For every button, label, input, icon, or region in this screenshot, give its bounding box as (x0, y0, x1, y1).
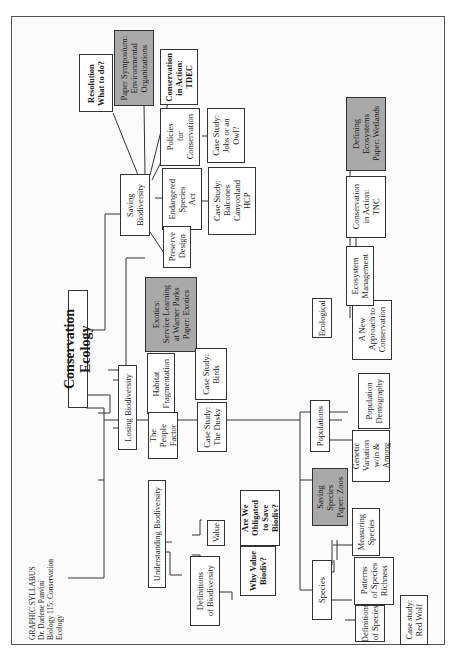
node-endangered-species-act: Endangered Species Act (162, 168, 202, 230)
node-preserve-design: Preserve Design (163, 226, 191, 268)
node-are-we-obligated: Are We Obligated to Save Biodiv? (240, 490, 280, 546)
node-saving-species: Saving Species Paper: Zoos (312, 468, 348, 526)
node-paper-symposium: Paper Symposium: Environmental Organizat… (114, 30, 154, 106)
node-exotics: Exotics: Service Learning at Warner Park… (145, 277, 197, 352)
node-case-dusky: Case Study: The Dusky (197, 402, 227, 452)
node-resolution: Resolution What to do? (79, 54, 113, 112)
node-why-value: Why Value Biodiv? (240, 546, 276, 596)
node-habitat-fragmentation: Habitat Fragmentation (147, 353, 175, 414)
node-jobs-owl: Case Study: Jobs or an Owl? (207, 108, 245, 163)
node-defining-ecosystems: Defining Ecosystems Paper: Wetlands (346, 97, 386, 171)
node-value: Value (207, 520, 225, 546)
root-conservation-ecology: Conservation Ecology (68, 290, 88, 408)
node-definitions-biodiversity: Definitions of Biodiversity (190, 556, 220, 626)
header-instructor: Dr. Darlene Panvini (37, 580, 46, 640)
root-label: Conservation Ecology (62, 291, 94, 407)
header-lines: GRAPHIC SYLLABUS Dr. Darlene Panvini Bio… (28, 540, 64, 640)
node-case-birds: Case Study: Birds (195, 348, 227, 400)
syllabus-header: GRAPHIC SYLLABUS Dr. Darlene Panvini Bio… (28, 540, 68, 640)
node-ecosystem-management: Ecosystem Management (346, 246, 374, 306)
node-genetic-variation: Genetic Variation w/in & Among (352, 430, 390, 482)
header-title: GRAPHIC SYLLABUS (28, 566, 37, 640)
node-losing-biodiversity: Losing Biodiversity (118, 365, 137, 450)
node-definitions-species: Definitions of Species (355, 605, 385, 642)
node-species: Species (312, 560, 332, 620)
node-balcones: Case Study: Balcones Canyonland HCP (208, 167, 256, 235)
node-case-red-wolf: Case study: Red Wolf (400, 595, 428, 645)
header-course: Biology 115: Conservation Ecology (46, 559, 64, 640)
node-saving-biodiversity: Saving Biodiversity (120, 174, 150, 236)
node-patterns-richness: Patterns of Species Richness (354, 557, 394, 605)
node-people-factor: The People Factor (148, 412, 178, 459)
node-measuring-species: Measuring Species (352, 508, 380, 556)
node-populations: Populations (310, 400, 330, 452)
node-population-demography: Population Demography (358, 373, 390, 429)
node-new-approach: A New Approach to Conservation (352, 300, 392, 360)
node-understanding-biodiversity: Understanding Biodiversity (148, 480, 166, 588)
node-ecological: Ecological (312, 298, 332, 338)
node-tnc: Conservation in Action: TNC (346, 176, 386, 238)
node-tdec: Conservation in Action: TDEC (160, 49, 198, 105)
node-policies: Policies for Conservation (160, 108, 200, 166)
